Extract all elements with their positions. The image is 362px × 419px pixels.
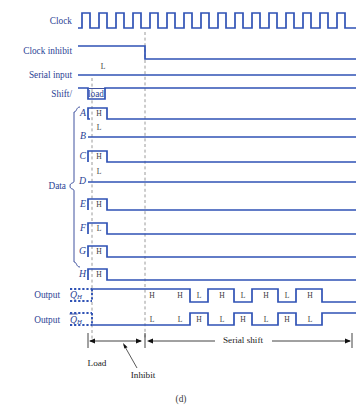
- output-q-label-subscript: H: [76, 293, 83, 300]
- timing-diagram-canvas: Clock Clock inhibit Serial input L Shift…: [0, 0, 362, 419]
- load-annotation: Load: [88, 358, 107, 368]
- data-row-level-c: H: [96, 152, 102, 161]
- shift-load-label: Shift/: [51, 89, 72, 99]
- output-qbar-level-4: L: [220, 315, 225, 324]
- data-row-label-h: H: [78, 268, 87, 279]
- output-qbar-level-3: H: [196, 315, 202, 324]
- data-row-level-a: H: [96, 109, 102, 118]
- output-qbar-level-6: L: [264, 315, 269, 324]
- data-row-waveform-f: [88, 223, 356, 234]
- output-q-level-2: H: [177, 291, 183, 300]
- load-span-arrow-left: [89, 339, 95, 344]
- inhibit-annotation: Inhibit: [131, 370, 156, 380]
- data-row-level-e: H: [96, 200, 102, 209]
- data-row-level-f: L: [97, 224, 102, 233]
- data-row-label-f: F: [79, 222, 87, 233]
- clock-label: Clock: [50, 16, 73, 26]
- output-qbar-label-subscript: H: [76, 318, 83, 325]
- clock-waveform: [78, 13, 356, 28]
- clock-inhibit-waveform: [78, 46, 356, 59]
- data-row-label-a: A: [79, 107, 87, 118]
- data-row-level-h: H: [96, 270, 102, 279]
- data-row-waveform-a: [88, 108, 356, 119]
- data-row-label-b: B: [80, 130, 86, 141]
- serial-input-label: Serial input: [29, 70, 73, 80]
- data-row-label-e: E: [79, 198, 86, 209]
- output-qbar-label-prefix: Output: [34, 315, 60, 325]
- output-qbar-level-8: L: [308, 315, 313, 324]
- clock-inhibit-label: Clock inhibit: [23, 46, 72, 56]
- output-q-level-5: L: [241, 291, 246, 300]
- shift-load-waveform: [78, 88, 356, 99]
- serial-shift-annotation: Serial shift: [223, 335, 264, 345]
- load-span-arrow-right: [136, 339, 142, 344]
- data-row-waveform-g: [88, 246, 356, 257]
- serial-shift-arrow-right: [345, 339, 351, 344]
- output-q-level-3: L: [197, 291, 202, 300]
- data-group-brace: [70, 107, 80, 267]
- data-row-waveform-h: [88, 269, 356, 280]
- output-q-level-8: H: [307, 291, 313, 300]
- figure-caption: (d): [176, 394, 187, 405]
- output-q-level-7: L: [285, 291, 290, 300]
- data-row-waveform-c: [88, 151, 356, 162]
- output-q-level-6: H: [263, 291, 269, 300]
- data-row-label-g: G: [79, 245, 86, 256]
- inhibit-leader-arrow: [123, 343, 128, 348]
- data-row-label-c: C: [79, 150, 86, 161]
- output-qbar-level-5: H: [240, 315, 246, 324]
- output-qbar-level-1: L: [150, 315, 155, 324]
- data-group-label: Data: [48, 181, 66, 191]
- data-row-level-g: H: [96, 247, 102, 256]
- data-row-level-b: L: [97, 123, 102, 132]
- shift-load-overbar-label: load: [88, 89, 104, 99]
- output-q-label-prefix: Output: [34, 290, 60, 300]
- output-qbar-level-2: L: [178, 315, 183, 324]
- output-q-level-4: H: [219, 291, 225, 300]
- output-qbar-level-7: H: [284, 315, 290, 324]
- inhibit-leader-line: [124, 345, 137, 368]
- data-row-label-d: D: [78, 175, 86, 186]
- data-row-waveform-e: [88, 199, 356, 210]
- serial-shift-arrow-left: [147, 339, 153, 344]
- output-q-level-1: H: [149, 291, 155, 300]
- serial-input-level-annotation: L: [101, 62, 106, 71]
- timing-diagram-figure: Clock Clock inhibit Serial input L Shift…: [0, 0, 362, 419]
- data-row-level-d: L: [97, 167, 102, 176]
